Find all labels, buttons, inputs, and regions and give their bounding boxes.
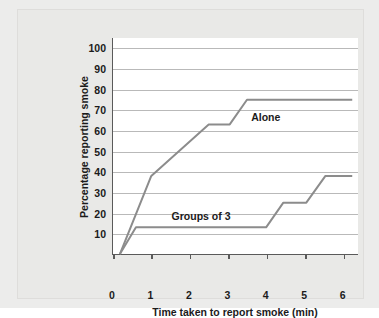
x-axis-tick-label: 6: [340, 289, 346, 301]
series-label: Groups of 3: [172, 210, 231, 222]
x-axis-tick-label: 2: [186, 289, 192, 301]
y-axis-tick-label: 70: [94, 104, 106, 116]
series-layer: [113, 38, 358, 254]
y-axis-tick-label: 60: [94, 125, 106, 137]
y-axis-tick-label: 100: [88, 42, 106, 54]
x-axis-tick-mark: [267, 254, 269, 259]
y-axis-tick-label: 10: [94, 228, 106, 240]
y-axis-tick-label: 90: [94, 63, 106, 75]
y-axis-tick-labels: 102030405060708090100: [70, 38, 106, 255]
series-line: [120, 100, 352, 254]
x-axis-tick-label: 5: [301, 289, 307, 301]
x-axis-tick-mark: [113, 254, 115, 259]
figure-panel: Percentage reporting smoke 1020304050607…: [18, 10, 363, 298]
x-axis-tick-mark: [151, 254, 153, 259]
plot-wrapper: 0123456 AloneGroups of 3 Time taken to r…: [112, 38, 358, 255]
series-label: Alone: [251, 111, 280, 123]
x-axis-tick-mark: [190, 254, 192, 259]
x-axis-tick-mark: [228, 254, 230, 259]
series-line: [120, 176, 352, 254]
x-axis-tick-label: 0: [109, 289, 115, 301]
y-axis-tick-label: 80: [94, 84, 106, 96]
y-axis-tick-label: 30: [94, 187, 106, 199]
x-axis-tick-mark: [344, 254, 346, 259]
x-axis-title: Time taken to report smoke (min): [112, 306, 358, 318]
x-axis-tick-mark: [305, 254, 307, 259]
x-axis-tick-label: 3: [224, 289, 230, 301]
y-axis-tick-label: 20: [94, 208, 106, 220]
x-axis-tick-label: 4: [263, 289, 269, 301]
x-axis-tick-label: 1: [148, 289, 154, 301]
y-axis-tick-label: 40: [94, 166, 106, 178]
y-axis-title-holder: Percentage reporting smoke: [48, 38, 62, 255]
y-axis-tick-label: 50: [94, 146, 106, 158]
plot-area: [112, 38, 358, 255]
